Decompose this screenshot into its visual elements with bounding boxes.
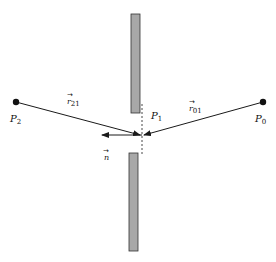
label-p2: P2: [9, 113, 21, 126]
screen-lower: [129, 153, 138, 251]
label-p0: P0: [254, 113, 266, 126]
arrow-accent-n: →: [103, 147, 109, 155]
point-p2-dot: [13, 99, 19, 105]
diffraction-diagram: P2 P0 P1 r21 → r01 → n →: [0, 0, 276, 262]
arrow-accent-r21: →: [67, 91, 73, 99]
screen-upper: [131, 14, 140, 113]
arrow-accent-r01: →: [189, 98, 195, 106]
point-p0-dot: [260, 99, 266, 105]
label-p1: P1: [150, 110, 162, 123]
